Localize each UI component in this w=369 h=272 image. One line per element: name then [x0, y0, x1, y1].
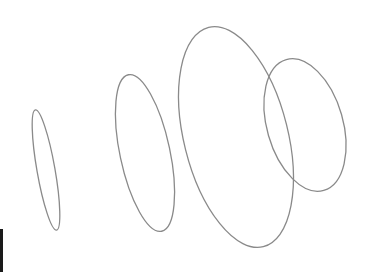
- ellipse-1: [27, 108, 66, 231]
- ellipse-group: [27, 15, 361, 259]
- ellipse-3: [158, 15, 314, 259]
- ellipse-2: [104, 70, 186, 237]
- ellipse-drawing-canvas: [0, 0, 369, 272]
- edge-mark: [0, 229, 3, 272]
